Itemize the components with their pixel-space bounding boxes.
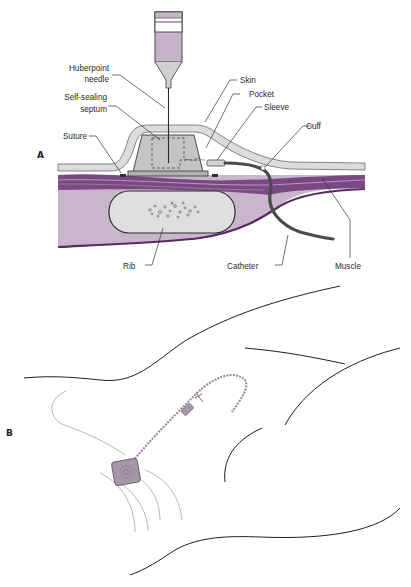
chest-contour bbox=[225, 428, 262, 482]
label-huberpoint-2: needle bbox=[84, 75, 109, 84]
label-catheter: Catheter bbox=[227, 262, 259, 271]
suture-left bbox=[120, 174, 126, 177]
arm-outline-2 bbox=[285, 348, 400, 425]
label-suture: Suture bbox=[63, 132, 88, 141]
implanted-port-diagram: Huberpoint needle Self-sealing septum Su… bbox=[0, 0, 411, 587]
label-skin: Skin bbox=[240, 76, 256, 85]
cuff bbox=[261, 166, 265, 170]
panel-b bbox=[24, 286, 400, 575]
panel-a: Huberpoint needle Self-sealing septum Su… bbox=[37, 12, 365, 271]
label-septum-2: septum bbox=[80, 105, 107, 114]
label-pocket: Pocket bbox=[249, 90, 275, 99]
panel-a-letter: A bbox=[37, 150, 44, 160]
suture-right bbox=[212, 174, 218, 177]
label-muscle: Muscle bbox=[335, 262, 361, 271]
label-septum-1: Self-sealing bbox=[64, 93, 107, 102]
sleeve-b bbox=[181, 403, 194, 416]
label-rib: Rib bbox=[123, 262, 136, 271]
panel-b-letter: B bbox=[6, 428, 13, 438]
label-huberpoint-1: Huberpoint bbox=[69, 64, 110, 73]
arm-outline bbox=[245, 348, 345, 364]
rib bbox=[109, 191, 235, 233]
body-outline-lower bbox=[130, 508, 400, 575]
port-b bbox=[111, 458, 141, 486]
sleeve bbox=[207, 160, 225, 166]
label-cuff: Cuff bbox=[306, 122, 322, 131]
cuff-b bbox=[195, 393, 203, 402]
catheter-b bbox=[133, 375, 246, 461]
label-sleeve: Sleeve bbox=[264, 103, 289, 112]
body-outline-upper bbox=[24, 286, 340, 381]
shoulder-curve bbox=[52, 391, 125, 455]
port-base bbox=[128, 171, 208, 176]
